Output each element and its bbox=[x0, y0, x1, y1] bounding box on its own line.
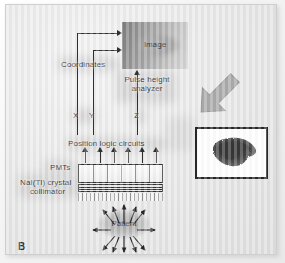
pmt-divider bbox=[149, 165, 150, 182]
pmt-divider bbox=[121, 165, 122, 182]
result-flow-arrow-icon bbox=[192, 69, 244, 121]
pmt-output-line bbox=[142, 151, 143, 163]
x-signal-horizontal-line bbox=[77, 33, 118, 34]
diagram-canvas: Image Coordinates Pulse height analyzer … bbox=[5, 4, 277, 255]
pulse-height-analyzer-label-line2: analyzer bbox=[116, 84, 178, 93]
pmt-output-arrowhead bbox=[82, 147, 88, 152]
scintigram-result-box bbox=[195, 127, 268, 179]
pmt-array-box bbox=[78, 164, 163, 183]
signal-label-x: X bbox=[73, 111, 78, 120]
halo-scan-left bbox=[166, 117, 194, 151]
y-signal-horizontal-line bbox=[93, 50, 118, 51]
pmt-output-line bbox=[114, 151, 115, 163]
pulse-height-analyzer-label-line1: Pulse height bbox=[116, 75, 178, 84]
nai-tl-crystal-layer bbox=[78, 184, 163, 192]
pmt-output-arrowhead bbox=[153, 147, 159, 152]
image-label: Image bbox=[122, 40, 188, 49]
pmt-output-arrowhead bbox=[111, 147, 117, 152]
panel-letter-label: B bbox=[18, 241, 25, 252]
signal-label-z: Z bbox=[134, 111, 139, 120]
pmt-divider bbox=[135, 165, 136, 182]
pmt-output-arrowhead bbox=[125, 147, 131, 152]
pmt-output-line bbox=[128, 151, 129, 163]
figure-panel-b: Image Coordinates Pulse height analyzer … bbox=[0, 0, 285, 263]
pmts-label: PMTs bbox=[50, 163, 70, 172]
pmt-output-line bbox=[100, 151, 101, 163]
pmt-output-arrowhead bbox=[97, 147, 103, 152]
pmt-divider bbox=[93, 165, 94, 182]
image-display-box: Image bbox=[122, 22, 188, 69]
pmt-divider bbox=[107, 165, 108, 182]
pmt-output-arrowhead bbox=[139, 147, 145, 152]
crystal-label: NaI(Tl) crystal bbox=[20, 178, 71, 187]
patient-emission-rays bbox=[79, 200, 169, 255]
pmt-output-line bbox=[156, 151, 157, 163]
liver-scintigram-image bbox=[205, 135, 261, 171]
collimator-label: collimator bbox=[30, 187, 65, 196]
signal-label-y: Y bbox=[89, 111, 94, 120]
x-signal-arrowhead bbox=[117, 30, 122, 36]
coordinates-label: Coordinates bbox=[61, 60, 105, 69]
y-signal-arrowhead bbox=[117, 47, 122, 53]
pmt-output-line bbox=[85, 151, 86, 163]
position-logic-circuits-label: Position logic circuits bbox=[68, 139, 145, 148]
